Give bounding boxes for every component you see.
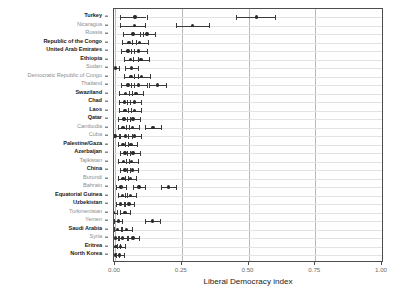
error-bar-cap xyxy=(147,49,148,54)
data-point xyxy=(114,66,117,69)
y-axis-label: Burundi xyxy=(83,175,102,181)
error-bar-cap xyxy=(127,168,128,173)
y-axis-label: Palestine/Gaza xyxy=(63,141,102,147)
y-axis-label: Cambodia xyxy=(77,124,102,130)
error-bar-cap xyxy=(127,151,128,156)
x-axis-tick-label: 1.00 xyxy=(375,266,387,273)
horizontal-gridline xyxy=(114,60,382,61)
error-bar-cap xyxy=(118,236,119,241)
error-bar-cap xyxy=(136,176,137,181)
error-bar-cap xyxy=(124,57,125,62)
data-point xyxy=(130,160,133,163)
error-bar-cap xyxy=(127,117,128,122)
error-bar-cap xyxy=(128,236,129,241)
error-bar-cap xyxy=(118,159,119,164)
data-point xyxy=(151,219,154,222)
y-axis-label: China xyxy=(87,166,102,172)
y-axis-tick xyxy=(105,135,108,136)
x-axis-tick-label: 0.25 xyxy=(175,266,187,273)
error-bar-cap xyxy=(118,142,119,147)
data-point xyxy=(127,41,130,44)
data-point xyxy=(140,75,143,78)
horizontal-gridline xyxy=(114,187,382,188)
y-axis-tick xyxy=(105,67,108,68)
horizontal-gridline xyxy=(114,43,382,44)
error-bar-cap xyxy=(131,49,132,54)
x-axis-tick xyxy=(381,262,382,265)
error-bar-cap xyxy=(127,100,128,105)
y-axis-label: Nicaragua xyxy=(77,22,102,28)
error-bar-cap xyxy=(122,40,123,45)
error-bar-cap xyxy=(120,15,121,20)
error-bar-cap xyxy=(119,108,120,113)
data-point xyxy=(118,253,121,256)
error-bar-cap xyxy=(140,32,141,37)
data-point xyxy=(139,58,142,61)
data-point xyxy=(131,117,134,120)
y-axis-tick xyxy=(105,16,108,17)
error-bar-cap xyxy=(122,219,123,224)
error-bar-cap xyxy=(118,193,119,198)
error-bar-cap xyxy=(138,159,139,164)
y-axis-label: Sudan xyxy=(86,64,102,70)
error-bar-cap xyxy=(121,227,122,232)
y-axis-tick xyxy=(105,245,108,246)
error-bar-cap xyxy=(128,134,129,139)
horizontal-gridline xyxy=(114,77,382,78)
data-point xyxy=(117,219,120,222)
y-axis-tick xyxy=(105,126,108,127)
y-axis-tick xyxy=(105,254,108,255)
data-point xyxy=(119,202,122,205)
error-bar-cap xyxy=(140,117,141,122)
horizontal-gridline xyxy=(114,162,382,163)
error-bar-cap xyxy=(116,185,117,190)
error-bar-cap xyxy=(209,23,210,28)
y-axis-label: Eritrea xyxy=(85,243,102,249)
error-bar-cap xyxy=(116,202,117,207)
horizontal-gridline xyxy=(114,51,382,52)
error-bar-cap xyxy=(114,227,115,232)
data-point xyxy=(123,109,126,112)
error-bar-cap xyxy=(119,66,120,71)
error-bar-cap xyxy=(155,32,156,37)
y-axis-tick xyxy=(105,58,108,59)
data-point xyxy=(121,126,124,129)
error-bar-cap xyxy=(176,185,177,190)
error-bar-cap xyxy=(275,15,276,20)
y-axis-tick xyxy=(105,75,108,76)
error-bar-cap xyxy=(125,66,126,71)
y-axis-label: Bahrain xyxy=(83,183,102,189)
error-bar-cap xyxy=(118,117,119,122)
error-bar-cap xyxy=(116,253,117,258)
horizontal-gridline xyxy=(114,170,382,171)
y-axis-label: Cuba xyxy=(89,132,102,138)
error-bar-cap xyxy=(147,15,148,20)
data-point xyxy=(113,134,116,137)
horizontal-gridline xyxy=(114,247,382,248)
data-point xyxy=(133,15,136,18)
error-bar-cap xyxy=(117,210,118,215)
error-bar-cap xyxy=(236,15,237,20)
error-bar-cap xyxy=(139,236,140,241)
error-bar-cap xyxy=(125,142,126,147)
error-bar-cap xyxy=(121,83,122,88)
horizontal-gridline xyxy=(114,119,382,120)
error-bar-cap xyxy=(136,193,137,198)
data-point xyxy=(145,32,148,35)
data-point xyxy=(151,126,154,129)
data-point xyxy=(131,32,134,35)
y-axis-label: Azerbaijan xyxy=(74,149,102,155)
data-point xyxy=(137,49,140,52)
x-axis-tick xyxy=(114,262,115,265)
error-bar-cap xyxy=(141,100,142,105)
y-axis-tick xyxy=(105,143,108,144)
y-axis-label: Chad xyxy=(88,98,102,104)
y-axis-label: Turkmenistan xyxy=(69,209,102,215)
error-bar-cap xyxy=(145,185,146,190)
vertical-gridline-0.50 xyxy=(249,9,250,261)
y-axis-tick xyxy=(105,203,108,204)
error-bar-cap xyxy=(141,134,142,139)
y-axis-tick xyxy=(105,84,108,85)
horizontal-gridline xyxy=(114,238,382,239)
plot-panel xyxy=(113,8,383,262)
